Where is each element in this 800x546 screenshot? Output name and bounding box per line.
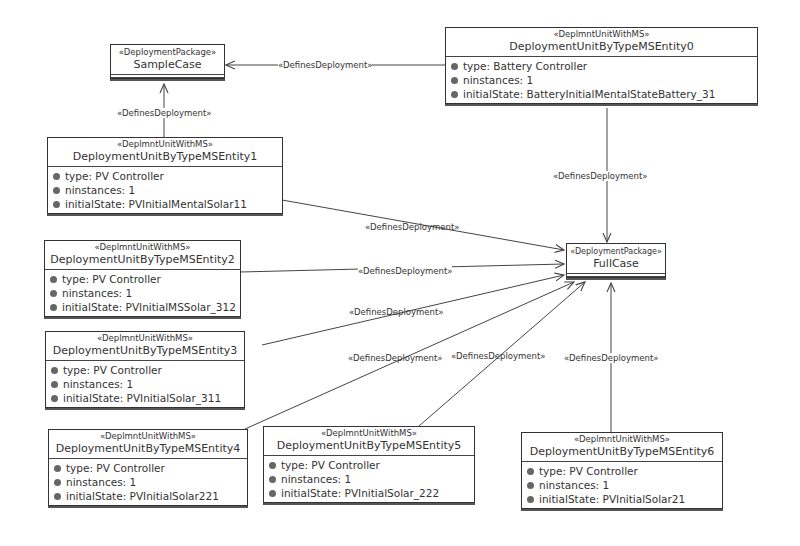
unit-name: DeploymentUnitByTypeMSEntity4 [51, 442, 245, 456]
attribute-icon [53, 201, 60, 208]
attribute-row: type: PV Controller [50, 272, 236, 286]
edge-label: «DefinesDeployment» [117, 108, 211, 118]
edge-label: «DefinesDeployment» [553, 171, 647, 181]
stereotype-label: «DeplmntUnitWithMS» [51, 431, 245, 442]
edge-label: «DefinesDeployment» [451, 351, 545, 361]
attribute-icon [51, 395, 58, 402]
attribute-row: initialState: PVInitialMentalSolar11 [53, 197, 278, 211]
deployment-unit-entity5[interactable]: «DeplmntUnitWithMS» DeploymentUnitByType… [263, 426, 475, 503]
deployment-unit-entity2[interactable]: «DeplmntUnitWithMS» DeploymentUnitByType… [44, 240, 241, 317]
attribute-icon [269, 476, 276, 483]
attribute-icon [269, 490, 276, 497]
attribute-row: type: PV Controller [269, 458, 470, 472]
unit-name: DeploymentUnitByTypeMSEntity6 [524, 445, 720, 459]
stereotype-label: «DeplmntUnitWithMS» [448, 29, 755, 40]
deployment-package-samplecase[interactable]: «DeploymentPackage» SampleCase [110, 44, 225, 79]
unit-name: DeploymentUnitByTypeMSEntity3 [48, 344, 242, 358]
attribute-icon [527, 482, 534, 489]
stereotype-label: «DeplmntUnitWithMS» [524, 434, 720, 445]
attribute-icon [269, 462, 276, 469]
attribute-row: ninstances: 1 [54, 475, 243, 489]
attribute-icon [527, 496, 534, 503]
deployment-unit-entity4[interactable]: «DeplmntUnitWithMS» DeploymentUnitByType… [48, 429, 248, 506]
attribute-row: initialState: PVInitialSolar_311 [51, 391, 240, 405]
attribute-row: ninstances: 1 [451, 73, 753, 87]
unit-name: DeploymentUnitByTypeMSEntity2 [47, 253, 238, 267]
attribute-icon [54, 465, 61, 472]
package-name: FullCase [569, 257, 663, 271]
attribute-row: initialState: PVInitialSolar_222 [269, 486, 470, 500]
deployment-package-fullcase[interactable]: «DeploymentPackage» FullCase [566, 243, 666, 278]
attribute-row: ninstances: 1 [51, 377, 240, 391]
attribute-row: initialState: PVInitialSolar21 [527, 492, 718, 506]
attribute-row: initialState: PVInitialMSSolar_312 [50, 300, 236, 314]
attribute-row: type: PV Controller [54, 461, 243, 475]
attribute-icon [53, 187, 60, 194]
attribute-row: initialState: BatteryInitialMentalStateB… [451, 87, 753, 101]
attribute-row: ninstances: 1 [527, 478, 718, 492]
edge-label: «DefinesDeployment» [564, 353, 658, 363]
attribute-icon [54, 493, 61, 500]
unit-name: DeploymentUnitByTypeMSEntity1 [50, 150, 280, 164]
edge-label: «DefinesDeployment» [358, 266, 452, 276]
attribute-icon [53, 173, 60, 180]
attribute-icon [50, 304, 57, 311]
attribute-row: initialState: PVInitialSolar221 [54, 489, 243, 503]
stereotype-label: «DeploymentPackage» [113, 47, 222, 58]
attribute-row: ninstances: 1 [53, 183, 278, 197]
stereotype-label: «DeplmntUnitWithMS» [50, 139, 280, 150]
stereotype-label: «DeplmntUnitWithMS» [48, 333, 242, 344]
deployment-unit-entity1[interactable]: «DeplmntUnitWithMS» DeploymentUnitByType… [47, 137, 283, 214]
stereotype-label: «DeploymentPackage» [569, 246, 663, 257]
unit-name: DeploymentUnitByTypeMSEntity5 [266, 439, 472, 453]
stereotype-label: «DeplmntUnitWithMS» [47, 242, 238, 253]
attribute-icon [527, 468, 534, 475]
deployment-unit-entity3[interactable]: «DeplmntUnitWithMS» DeploymentUnitByType… [45, 331, 245, 408]
attribute-icon [50, 276, 57, 283]
attribute-icon [51, 381, 58, 388]
attribute-row: type: PV Controller [53, 169, 278, 183]
attribute-icon [51, 367, 58, 374]
attribute-icon [451, 63, 458, 70]
attribute-icon [451, 77, 458, 84]
attribute-row: type: Battery Controller [451, 59, 753, 73]
edge-label: «DefinesDeployment» [365, 222, 459, 232]
attribute-icon [54, 479, 61, 486]
attribute-row: ninstances: 1 [50, 286, 236, 300]
stereotype-label: «DeplmntUnitWithMS» [266, 428, 472, 439]
package-name: SampleCase [113, 58, 222, 72]
attribute-row: type: PV Controller [51, 363, 240, 377]
edge-label: «DefinesDeployment» [278, 60, 372, 70]
attribute-icon [50, 290, 57, 297]
deployment-unit-entity0[interactable]: «DeplmntUnitWithMS» DeploymentUnitByType… [445, 27, 758, 104]
edge-label: «DefinesDeployment» [348, 353, 442, 363]
attribute-icon [451, 91, 458, 98]
attribute-row: type: PV Controller [527, 464, 718, 478]
edge-label: «DefinesDeployment» [349, 307, 443, 317]
attribute-row: ninstances: 1 [269, 472, 470, 486]
unit-name: DeploymentUnitByTypeMSEntity0 [448, 40, 755, 54]
deployment-unit-entity6[interactable]: «DeplmntUnitWithMS» DeploymentUnitByType… [521, 432, 723, 509]
